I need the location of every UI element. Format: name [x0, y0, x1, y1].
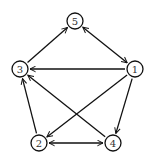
node-2: 2	[31, 135, 47, 151]
edge-1-2	[47, 75, 127, 137]
edges-layer	[22, 27, 132, 143]
node-5: 5	[67, 13, 83, 29]
edge-5-1-bidirectional	[83, 27, 127, 63]
edge-4-3	[28, 75, 105, 137]
node-4: 4	[105, 135, 121, 151]
node-label: 5	[72, 16, 78, 27]
node-3: 3	[12, 61, 28, 77]
nodes-layer: 12345	[12, 13, 143, 151]
node-label: 2	[36, 138, 42, 149]
node-1: 1	[127, 61, 143, 77]
node-label: 1	[132, 64, 138, 75]
node-label: 3	[17, 64, 23, 75]
node-label: 4	[110, 138, 116, 149]
edge-3-5	[28, 28, 68, 63]
edge-1-4	[116, 79, 132, 134]
edge-2-3	[22, 79, 36, 134]
directed-graph: 12345	[0, 0, 154, 163]
